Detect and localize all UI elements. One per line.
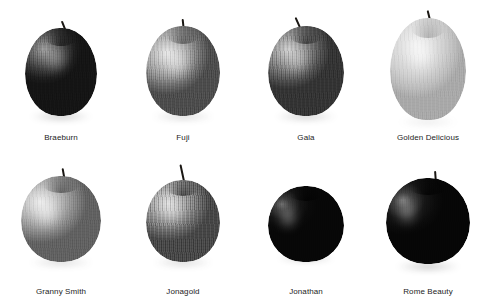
apple-cell: Gala — [245, 0, 367, 153]
apple-calyx-dimple — [289, 26, 324, 44]
apple-cell: Jonathan — [245, 154, 367, 307]
apple-variety-label: Braeburn — [0, 133, 122, 142]
apple-icon — [386, 178, 470, 264]
apple-variety-label: Jonathan — [245, 287, 367, 296]
apple-highlight — [43, 44, 69, 74]
apple-variety-label: Granny Smith — [0, 287, 122, 296]
apple-calyx-dimple — [409, 178, 448, 195]
apple-photo — [0, 154, 122, 286]
apple-variety-label: Jonagold — [122, 287, 244, 296]
apple-highlight — [278, 204, 298, 230]
apple-photo — [245, 154, 367, 286]
apple-highlight — [162, 44, 192, 80]
apple-icon — [21, 176, 101, 262]
apple-variety-label: Fuji — [122, 133, 244, 142]
apple-variety-label: Golden Delicious — [367, 133, 489, 142]
apple-variety-label: Gala — [245, 133, 367, 142]
apple-highlight — [284, 44, 310, 76]
apple-icon — [390, 18, 466, 120]
apple-photo — [0, 0, 122, 132]
apple-cell: Rome Beauty — [367, 154, 489, 307]
apple-cell: Golden Delicious — [367, 0, 489, 153]
apple-calyx-dimple — [43, 176, 80, 193]
apple-icon — [146, 26, 220, 116]
apple-calyx-dimple — [289, 186, 324, 201]
apple-highlight — [406, 34, 436, 74]
apple-icon — [146, 180, 220, 262]
apple-variety-plate: BraeburnFujiGalaGolden DeliciousGranny S… — [0, 0, 489, 307]
apple-cell: Fuji — [122, 0, 244, 153]
apple-calyx-dimple — [166, 26, 200, 44]
apple-photo — [367, 154, 489, 286]
apple-highlight — [33, 196, 61, 230]
apple-photo — [122, 154, 244, 286]
apple-photo — [367, 0, 489, 132]
apple-cell: Jonagold — [122, 154, 244, 307]
apple-variety-label: Rome Beauty — [367, 287, 489, 296]
apple-photo — [122, 0, 244, 132]
apple-photo — [245, 0, 367, 132]
apple-highlight — [396, 196, 418, 226]
apple-highlight — [160, 198, 184, 226]
apple-cell: Granny Smith — [0, 154, 122, 307]
apple-icon — [268, 26, 344, 116]
apple-icon — [25, 28, 97, 116]
apple-cell: Braeburn — [0, 0, 122, 153]
apple-icon — [268, 186, 344, 262]
